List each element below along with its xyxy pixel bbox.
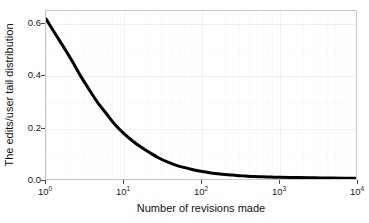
y-tick-label-wrap: 0.2 (0, 123, 41, 133)
y-tick-label: 0.2 (15, 123, 41, 133)
x-tick-mark (357, 180, 358, 184)
x-tick-label: 103 (259, 186, 299, 197)
x-tick-label: 101 (103, 186, 143, 197)
x-tick-mark (279, 180, 280, 184)
y-tick-label: 0.4 (15, 70, 41, 80)
x-tick-mark (45, 180, 46, 184)
x-tick-mark (201, 180, 202, 184)
y-tick-label: 0.0 (15, 175, 41, 185)
y-tick-label-wrap: 0.4 (0, 70, 41, 80)
plot-area (45, 10, 357, 180)
data-series-curve (46, 11, 357, 180)
x-tick-label: 104 (337, 186, 369, 197)
y-tick-label-wrap: 0.6 (0, 18, 41, 28)
y-axis-title-text: The edits/user tail distribution (3, 23, 15, 166)
y-tick-label: 0.6 (15, 18, 41, 28)
x-axis-title: Number of revisions made (45, 202, 357, 214)
x-tick-label: 102 (181, 186, 221, 197)
x-tick-label: 100 (25, 186, 65, 197)
chart-figure: The edits/user tail distribution 0.00.20… (0, 0, 369, 223)
x-tick-mark (123, 180, 124, 184)
y-tick-label-wrap: 0.0 (0, 175, 41, 185)
series-path-edits-user-tail (46, 19, 357, 179)
y-axis-title: The edits/user tail distribution (0, 0, 18, 190)
